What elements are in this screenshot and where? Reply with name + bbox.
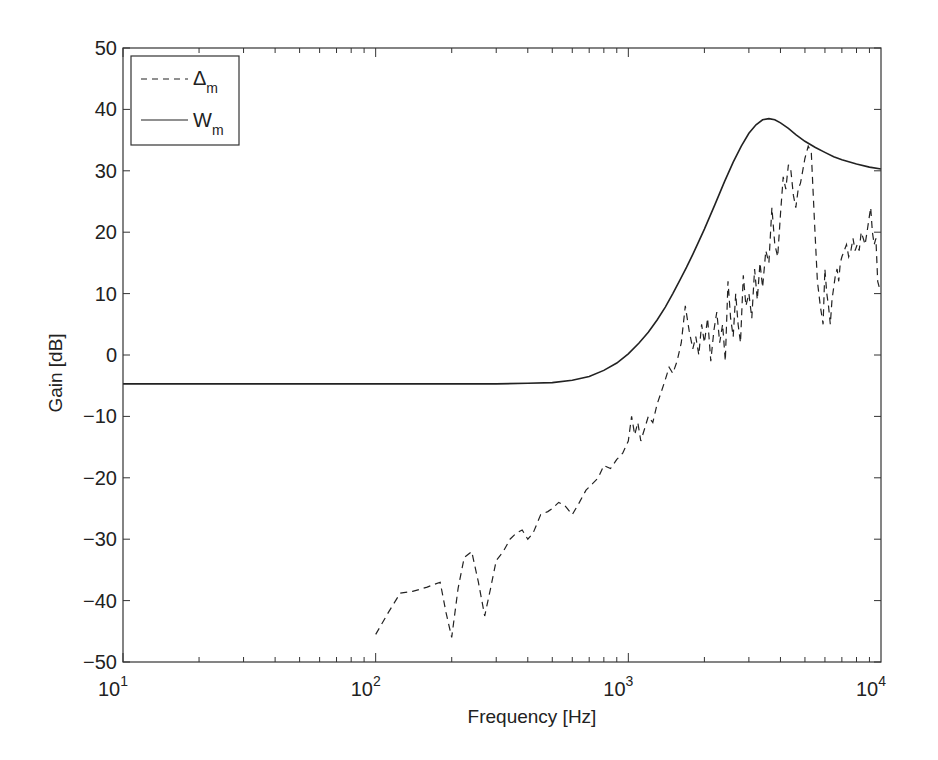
y-tick-label: 30 xyxy=(95,160,117,182)
legend-label-base: Δ xyxy=(193,67,206,89)
y-tick-label: −20 xyxy=(83,467,117,489)
legend-label-base: W xyxy=(193,109,212,131)
y-tick-label: 50 xyxy=(95,37,117,59)
plot-lines xyxy=(123,119,881,638)
y-tick-label: −40 xyxy=(83,590,117,612)
x-tick-label: 104 xyxy=(856,673,886,700)
x-tick-label: 103 xyxy=(603,673,633,700)
y-tick-label: 40 xyxy=(95,98,117,120)
chart-canvas: 101102103104 50403020100−10−20−30−40−50 … xyxy=(0,0,938,760)
legend: Δm Wm xyxy=(131,56,239,145)
y-axis-label: Gain [dB] xyxy=(45,333,66,412)
y-tick-label: −30 xyxy=(83,528,117,550)
x-tick-label: 101 xyxy=(98,673,128,700)
x-tick-label: 102 xyxy=(351,673,381,700)
x-axis-label: Frequency [Hz] xyxy=(468,706,597,727)
series-line-delta-m xyxy=(376,146,880,637)
y-tick-label: 0 xyxy=(106,344,117,366)
y-tick-label: −50 xyxy=(83,651,117,673)
gain-chart: 101102103104 50403020100−10−20−30−40−50 … xyxy=(0,0,938,760)
x-axis: 101102103104 xyxy=(98,48,886,700)
y-tick-label: 10 xyxy=(95,283,117,305)
legend-label-subscript: m xyxy=(212,122,224,138)
series-line-w-m xyxy=(123,119,881,384)
y-tick-label: 20 xyxy=(95,221,117,243)
y-tick-label: −10 xyxy=(83,405,117,427)
legend-label-subscript: m xyxy=(206,80,218,96)
